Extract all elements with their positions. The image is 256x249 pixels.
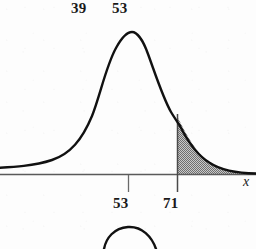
- figure-container: 39 53 53 71 x: [0, 0, 256, 249]
- axis-label-53: 53: [113, 196, 129, 211]
- secondary-curve-partial: [104, 227, 156, 249]
- distribution-chart-svg: [0, 0, 256, 249]
- axis-label-71: 71: [163, 196, 179, 211]
- curve-label-39: 39: [71, 1, 87, 16]
- x-axis-title: x: [243, 174, 249, 190]
- curve-label-53-top: 53: [112, 1, 128, 16]
- normal-curve-path: [0, 32, 256, 174]
